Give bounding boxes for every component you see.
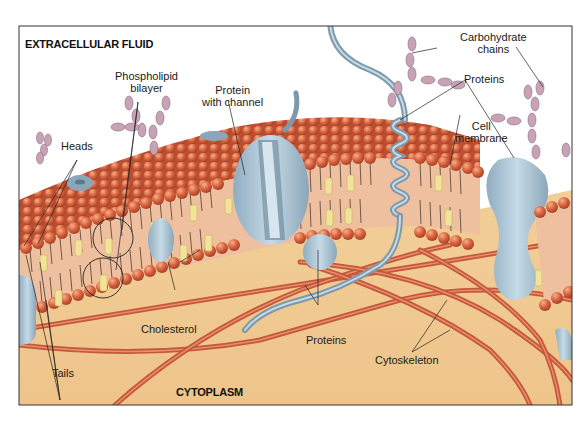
channel-protein [233,135,309,245]
label-cholesterol: Cholesterol [141,323,197,335]
region-label-extracellular-fluid: EXTRACELLULAR FLUID [25,38,153,50]
label-carbohydrate-chains: Carbohydrate chains [460,31,527,55]
embedded-protein-left [148,218,174,262]
region-label-cytoplasm: CYTOPLASM [176,386,243,398]
label-tails: Tails [52,367,74,379]
label-phospholipid-bilayer: Phospholipid bilayer [115,70,178,94]
label-cytoskeleton: Cytoskeleton [375,354,439,366]
label-cell-membrane: Cell membrane [455,120,508,144]
label-proteins-top: Proteins [464,73,504,85]
peripheral-protein [303,234,337,270]
label-proteins-bottom: Proteins [306,334,346,346]
diagram-canvas [0,0,583,421]
cell-membrane-diagram: EXTRACELLULAR FLUID CYTOPLASM Phospholip… [0,0,583,421]
label-protein-with-channel: Protein with channel [202,84,263,108]
label-heads: Heads [61,140,93,152]
